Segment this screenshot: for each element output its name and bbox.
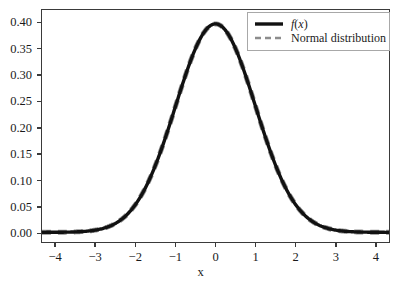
y-tick-label: 0.10 xyxy=(0,175,32,188)
x-tick-label: 1 xyxy=(236,251,276,264)
x-tick-mark xyxy=(175,243,176,247)
y-tick-label: 0.00 xyxy=(0,227,32,240)
y-tick-label: 0.15 xyxy=(0,148,32,161)
x-tick-mark xyxy=(255,243,256,247)
x-tick-mark xyxy=(94,243,95,247)
x-tick-mark xyxy=(54,243,55,247)
legend-label-fx: f(x) xyxy=(291,18,308,30)
x-tick-label: −1 xyxy=(155,251,195,264)
y-tick-label: 0.35 xyxy=(0,43,32,56)
x-tick-mark xyxy=(335,243,336,247)
x-axis-label: x xyxy=(0,266,401,279)
y-tick-mark xyxy=(37,180,41,181)
y-tick-mark xyxy=(37,206,41,207)
y-tick-mark xyxy=(37,233,41,234)
x-tick-mark xyxy=(295,243,296,247)
x-tick-mark xyxy=(375,243,376,247)
y-tick-label: 0.40 xyxy=(0,16,32,29)
y-tick-label: 0.05 xyxy=(0,201,32,214)
x-tick-label: −3 xyxy=(75,251,115,264)
x-tick-label: −2 xyxy=(115,251,155,264)
y-tick-label: 0.20 xyxy=(0,122,32,135)
legend-entry-fx: f(x) xyxy=(254,17,383,31)
normal-distribution-dashed-curve xyxy=(42,24,389,232)
x-tick-label: 0 xyxy=(196,251,236,264)
x-tick-label: 4 xyxy=(356,251,396,264)
y-tick-mark xyxy=(37,127,41,128)
y-tick-mark xyxy=(37,101,41,102)
x-tick-label: −4 xyxy=(35,251,75,264)
x-tick-label: 3 xyxy=(316,251,356,264)
y-tick-mark xyxy=(37,48,41,49)
x-tick-label: 2 xyxy=(276,251,316,264)
y-tick-label: 0.25 xyxy=(0,95,32,108)
y-tick-mark xyxy=(37,153,41,154)
x-tick-mark xyxy=(215,243,216,247)
legend-label-normal-distribution: Normal distribution xyxy=(291,32,386,44)
y-tick-mark xyxy=(37,22,41,23)
legend-solid-line-icon xyxy=(254,18,284,30)
legend-box: f(x) Normal distribution xyxy=(247,12,390,51)
x-tick-mark xyxy=(135,243,136,247)
figure-canvas: 0.000.050.100.150.200.250.300.350.40 −4−… xyxy=(0,0,401,288)
fx-solid-curve xyxy=(42,24,389,232)
y-tick-mark xyxy=(37,74,41,75)
legend-entry-normal-distribution: Normal distribution xyxy=(254,31,383,45)
legend-label-fx-paren-close: ) xyxy=(304,17,308,31)
legend-dashed-line-icon xyxy=(254,32,284,44)
y-tick-label: 0.30 xyxy=(0,69,32,82)
